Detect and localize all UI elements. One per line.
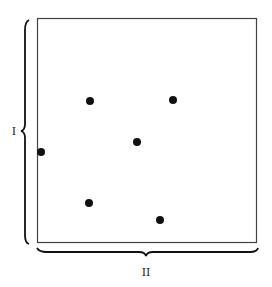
vertical-axis-label: I [12,125,16,138]
data-point [37,148,45,156]
vertical-brace [21,20,29,244]
data-point [169,96,177,104]
data-point [86,97,94,105]
data-point [156,216,164,224]
data-points [37,96,177,224]
plot-box [38,19,257,243]
data-point [85,199,93,207]
data-point [133,138,141,146]
horizontal-brace [37,248,258,256]
scatter-diagram: I II [0,0,272,287]
horizontal-axis-label: II [142,266,151,279]
